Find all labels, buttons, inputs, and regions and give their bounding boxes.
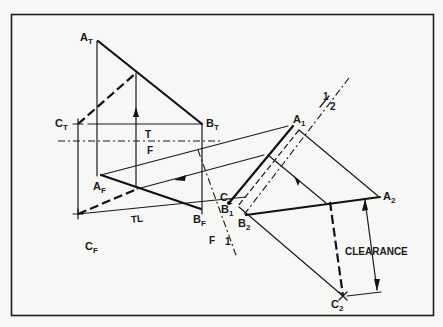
- point-label-a-1: A 1: [293, 113, 306, 128]
- point-label-a-f: A F: [93, 180, 106, 195]
- svg-text:2: 2: [391, 196, 396, 205]
- aux-view-1: [227, 126, 299, 206]
- fold-line-12: [243, 78, 349, 216]
- point-label-a-t: A T: [80, 31, 93, 46]
- true-length-label: TL: [130, 213, 143, 225]
- svg-text:F: F: [93, 246, 98, 255]
- svg-text:1: 1: [229, 209, 234, 218]
- clearance-diagram: T F F 1 1 2: [0, 0, 443, 327]
- svg-text:A: A: [383, 190, 391, 202]
- svg-text:T: T: [214, 123, 219, 132]
- svg-text:B: B: [193, 213, 201, 225]
- fold-label-f1-1: 1: [225, 236, 231, 247]
- svg-text:2: 2: [246, 223, 251, 232]
- svg-text:A: A: [80, 31, 88, 43]
- svg-text:A: A: [93, 180, 101, 192]
- point-label-a-2: A 2: [383, 190, 396, 205]
- fold-label-t: T: [145, 129, 151, 140]
- svg-text:T: T: [88, 37, 93, 46]
- svg-text:2: 2: [339, 304, 344, 313]
- point-label-c-2: C 2: [331, 298, 344, 313]
- point-label-b-2: B 2: [238, 217, 251, 232]
- fold-label-f: F: [147, 145, 153, 156]
- svg-text:C: C: [331, 298, 339, 310]
- svg-text:B: B: [238, 217, 246, 229]
- fold-label-f1-f: F: [209, 235, 215, 246]
- svg-text:B: B: [221, 203, 229, 215]
- svg-text:1: 1: [301, 119, 306, 128]
- fold-label-12-2: 2: [330, 101, 336, 112]
- svg-text:C: C: [85, 240, 93, 252]
- clearance-label: CLEARANCE: [345, 246, 408, 257]
- point-label-b-f: B F: [193, 213, 206, 228]
- svg-text:C: C: [220, 191, 228, 203]
- point-label-c-f: C F: [85, 240, 98, 255]
- svg-text:T: T: [63, 123, 68, 132]
- svg-text:B: B: [206, 117, 214, 129]
- svg-text:F: F: [101, 186, 106, 195]
- svg-text:A: A: [293, 113, 301, 125]
- svg-text:F: F: [201, 219, 206, 228]
- point-label-c-t: C T: [55, 117, 68, 132]
- svg-text:C: C: [55, 117, 63, 129]
- drawing-frame: [12, 15, 434, 316]
- point-label-b-t: B T: [206, 117, 219, 132]
